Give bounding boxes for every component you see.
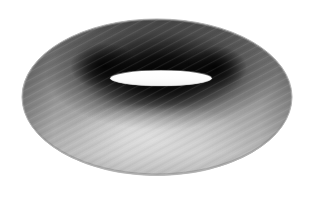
torus-hole bbox=[110, 70, 212, 86]
torus-facet-texture bbox=[22, 19, 292, 175]
render-canvas: Torus torus shaded-grayscale-polygon-mes… bbox=[0, 0, 316, 201]
torus-render-svg bbox=[0, 0, 316, 201]
